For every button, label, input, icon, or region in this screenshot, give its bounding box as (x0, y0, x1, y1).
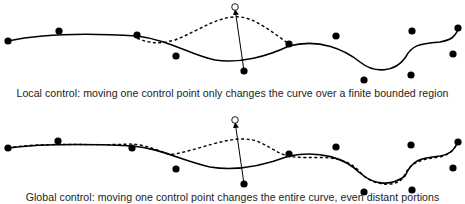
control-point-icon (4, 144, 11, 151)
control-point-icon (128, 144, 135, 151)
control-point-icon (407, 141, 414, 148)
global-control-caption: Global control: moving one control point… (0, 191, 465, 203)
control-point-icon (240, 180, 247, 187)
control-point-icon (172, 52, 179, 59)
control-point-icon (449, 50, 456, 57)
control-point-icon (54, 137, 61, 144)
moved-control-point-icon (232, 117, 239, 124)
control-point-icon (454, 24, 461, 31)
control-point-icon (407, 71, 414, 78)
control-point-icon (408, 27, 415, 34)
control-point-icon (285, 150, 292, 157)
control-point-icon (332, 32, 339, 39)
control-point-icon (332, 143, 339, 150)
control-point-icon (55, 27, 62, 34)
move-arrow-icon (236, 12, 245, 71)
modified-curve (8, 139, 458, 184)
global-control-panel (4, 117, 461, 196)
control-point-icon (133, 31, 140, 38)
control-point-icon (240, 67, 247, 74)
control-point-icon (285, 40, 292, 47)
local-control-panel (4, 4, 461, 84)
original-curve (8, 30, 458, 70)
control-point-icon (172, 165, 179, 172)
move-arrow-icon (236, 125, 245, 184)
curve-diagram (0, 0, 465, 204)
modified-curve (137, 17, 289, 44)
control-point-icon (4, 37, 11, 44)
original-curve (8, 142, 458, 183)
control-point-icon (360, 76, 367, 83)
control-point-icon (454, 138, 461, 145)
control-point-icon (449, 164, 456, 171)
local-control-caption: Local control: moving one control point … (0, 87, 465, 99)
moved-control-point-icon (232, 4, 239, 11)
